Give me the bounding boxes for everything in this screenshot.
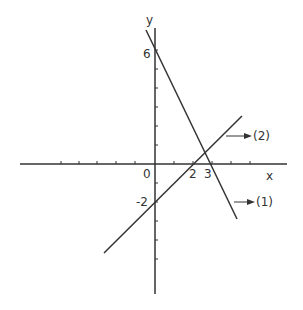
line-2: [104, 116, 242, 253]
line-2-label: (2): [253, 129, 270, 143]
x-axis-label: x: [266, 169, 273, 183]
arrow-line-2: [226, 133, 252, 139]
tick-label-x-3: 3: [204, 167, 212, 181]
tick-label-y-neg2: -2: [136, 195, 148, 209]
coordinate-diagram: y x 0 2 3 6 -2 (2) (1): [0, 0, 303, 310]
line-1: [146, 30, 237, 219]
y-axis-label: y: [146, 13, 153, 27]
tick-label-y-6: 6: [143, 47, 151, 61]
line-1-label: (1): [256, 195, 273, 209]
arrow-line-1: [234, 199, 255, 205]
origin-label: 0: [143, 167, 151, 181]
tick-label-x-2: 2: [189, 167, 197, 181]
